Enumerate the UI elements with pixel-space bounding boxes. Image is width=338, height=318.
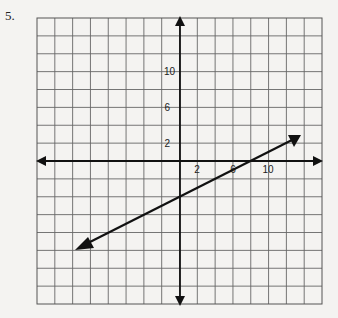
y-tick-label-6: 6: [164, 102, 170, 113]
x-tick-label-10: 10: [262, 164, 274, 175]
line-arrow-lower-left-icon: [75, 237, 94, 250]
y-tick-label-2: 2: [164, 138, 170, 149]
x-tick-label-2: 2: [194, 164, 200, 175]
coordinate-plane: 2 6 10 2 6 10: [0, 0, 338, 318]
y-tick-label-10: 10: [164, 66, 176, 77]
